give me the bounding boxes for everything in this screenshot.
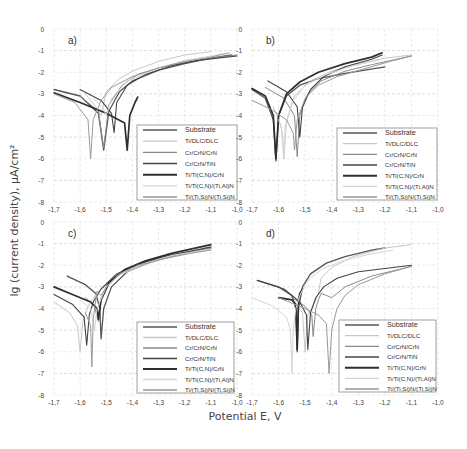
- x-tick-label: -1,3: [353, 399, 365, 406]
- y-tick-label: 0: [238, 26, 242, 33]
- y-tick-label: -2: [38, 69, 44, 76]
- legend-entry: Ti/Ti(C,N)/CrN: [385, 172, 424, 179]
- y-tick-label: -5: [38, 327, 44, 334]
- y-tick-label: -6: [38, 155, 44, 162]
- y-tick-label: -2: [236, 262, 242, 269]
- y-tick-label: -4: [236, 112, 242, 119]
- y-tick-label: -6: [236, 155, 242, 162]
- x-tick-label: -1,1: [406, 399, 418, 406]
- y-tick-label: -5: [236, 327, 242, 334]
- legend-entry: Substrate: [185, 125, 216, 134]
- legend-entry: Ti/Ti(C,N)/CrN: [185, 365, 224, 372]
- legend-entry: Substrate: [185, 322, 216, 331]
- x-tick-label: -1,5: [300, 399, 312, 406]
- panel-label: a): [68, 35, 77, 46]
- legend-entry: Ti/Ti(C,N)/CrN: [387, 364, 426, 371]
- x-tick-label: -1,7: [48, 206, 60, 213]
- legend-entry: Ti/Ti(C,N)/(Ti,Al)N: [385, 183, 434, 190]
- y-tick-label: -4: [38, 112, 44, 119]
- chart-panel-d: 0-1-2-3-4-5-6-7-8-1,7-1,6-1,5-1,4-1,3-1,…: [236, 219, 444, 407]
- x-tick-label: -1,4: [326, 206, 338, 213]
- chart-panel-c: 0-1-2-3-4-5-6-7-8-1,7-1,6-1,5-1,4-1,3-1,…: [38, 219, 243, 407]
- y-tick-label: -5: [38, 134, 44, 141]
- y-tick-label: -7: [236, 370, 242, 377]
- x-tick-label: -1,2: [379, 206, 391, 213]
- x-tick-label: -1,0: [231, 206, 243, 213]
- x-tick-label: -1,0: [432, 399, 444, 406]
- legend-entry: Ti/Ti(C,N)/CrN: [185, 171, 224, 178]
- legend-entry: Cr/CrN/TiN: [385, 161, 415, 168]
- legend-entry: Cr/CrN/CrN: [387, 343, 419, 350]
- y-tick-label: -7: [38, 177, 44, 184]
- legend-entry: Ti/(Ti,Si)N/(Ti,Si)N: [185, 193, 235, 200]
- legend-entry: Cr/CrN/CrN: [185, 149, 217, 156]
- y-tick-label: -8: [236, 392, 242, 399]
- legend-entry: Ti/Ti(C,N)/(Ti,Al)N: [185, 376, 234, 383]
- x-tick-label: -1,6: [75, 206, 87, 213]
- x-tick-label: -1,3: [153, 399, 165, 406]
- legend-entry: Ti/DLC/DLC: [185, 137, 219, 144]
- legend-entry: Ti/(Ti,Si)N/(Ti,Si)N: [385, 193, 435, 200]
- panel-label: d): [266, 228, 275, 239]
- y-tick-label: -1: [38, 240, 44, 247]
- y-axis-label-container: lg (current density), µA/cm²: [4, 120, 24, 320]
- legend-entry: Ti/(Ti,Si)N/(Ti,Si)N: [387, 385, 437, 392]
- y-tick-label: -4: [236, 305, 242, 312]
- chart-panel-a: 0-1-2-3-4-5-6-7-8-1,7-1,6-1,5-1,4-1,3-1,…: [38, 26, 243, 214]
- y-tick-label: -6: [236, 348, 242, 355]
- x-tick-label: -1,0: [432, 206, 444, 213]
- legend: SubstrateTi/DLC/DLCCr/CrN/CrNCr/CrN/TiNT…: [137, 125, 237, 200]
- x-axis-label: Potential E, V: [180, 410, 310, 423]
- x-tick-label: -1,2: [179, 206, 191, 213]
- x-tick-label: -1,2: [379, 399, 391, 406]
- legend-entry: Cr/CrN/CrN: [185, 344, 217, 351]
- y-tick-label: -8: [38, 199, 44, 206]
- x-tick-label: -1,1: [406, 206, 418, 213]
- panel-label: b): [266, 35, 275, 46]
- x-tick-label: -1,5: [101, 399, 113, 406]
- x-tick-label: -1,3: [353, 206, 365, 213]
- legend: SubstrateTi/DLC/DLCCr/CrN/CrNCr/CrN/TiNT…: [339, 320, 437, 392]
- y-tick-label: -4: [38, 305, 44, 312]
- x-tick-label: -1,1: [205, 206, 217, 213]
- x-tick-label: -1,4: [326, 399, 338, 406]
- y-tick-label: -7: [38, 370, 44, 377]
- x-tick-label: -1,7: [246, 399, 258, 406]
- x-tick-label: -1,6: [273, 206, 285, 213]
- legend-entry: Ti/DLC/DLC: [385, 140, 419, 147]
- x-tick-label: -1,7: [48, 399, 60, 406]
- x-tick-label: -1,4: [127, 399, 139, 406]
- y-tick-label: -1: [38, 47, 44, 54]
- y-tick-label: -3: [236, 283, 242, 290]
- legend-entry: Cr/CrN/TiN: [185, 160, 215, 167]
- y-tick-label: -3: [38, 283, 44, 290]
- x-tick-label: -1,4: [127, 206, 139, 213]
- y-tick-label: -1: [236, 47, 242, 54]
- y-tick-label: -1: [236, 240, 242, 247]
- chart-panel-b: 0-1-2-3-4-5-6-7-8-1,7-1,6-1,5-1,4-1,3-1,…: [236, 26, 444, 214]
- figure-canvas: 0-1-2-3-4-5-6-7-8-1,7-1,6-1,5-1,4-1,3-1,…: [0, 0, 467, 449]
- y-tick-label: 0: [238, 219, 242, 226]
- legend: SubstrateTi/DLC/DLCCr/CrN/CrNCr/CrN/TiNT…: [337, 128, 437, 200]
- panel-label: c): [68, 228, 76, 239]
- y-tick-label: -5: [236, 134, 242, 141]
- x-tick-label: -1,0: [231, 399, 243, 406]
- y-tick-label: 0: [40, 219, 44, 226]
- x-tick-label: -1,6: [75, 399, 87, 406]
- x-tick-label: -1,1: [205, 399, 217, 406]
- y-tick-label: -6: [38, 348, 44, 355]
- legend-entry: Ti/(Ti,Si)N/(Ti,Si)N: [185, 386, 235, 393]
- legend-entry: Cr/CrN/CrN: [385, 151, 417, 158]
- y-tick-label: 0: [40, 26, 44, 33]
- y-tick-label: -8: [38, 392, 44, 399]
- y-tick-label: -3: [236, 90, 242, 97]
- series-line: [85, 248, 210, 322]
- legend-entry: Cr/CrN/TiN: [387, 353, 417, 360]
- x-tick-label: -1,7: [246, 206, 258, 213]
- y-tick-label: -2: [236, 69, 242, 76]
- x-tick-label: -1,2: [179, 399, 191, 406]
- y-tick-label: -3: [38, 90, 44, 97]
- legend-entry: Substrate: [387, 320, 418, 329]
- legend-entry: Substrate: [385, 128, 416, 137]
- legend-entry: Ti/Ti(C,N)/(Ti,Al)N: [185, 182, 234, 189]
